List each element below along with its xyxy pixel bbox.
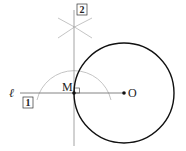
cross-arc-left <box>58 18 92 38</box>
label-o: O <box>128 86 137 100</box>
label-line-l: ℓ <box>9 86 14 100</box>
step2-label: 2 <box>80 4 85 15</box>
point-m <box>72 91 76 95</box>
label-m: M <box>62 80 73 94</box>
diagram-canvas: M O ℓ 1 2 <box>0 0 186 151</box>
geometry-diagram: M O ℓ 1 2 <box>0 0 186 151</box>
point-o <box>122 91 126 95</box>
step1-label: 1 <box>26 97 31 108</box>
